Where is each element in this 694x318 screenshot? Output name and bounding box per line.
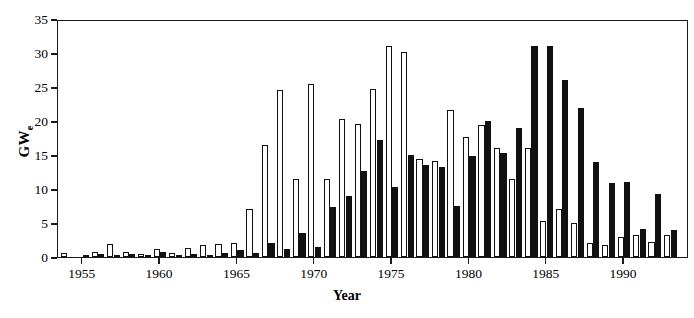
x-axis-tick [313,258,314,264]
bar [83,255,89,257]
bar [386,46,392,257]
bar [370,89,376,257]
bar [185,248,191,257]
x-axis-tick-label: 1990 [593,266,653,282]
bar [664,235,670,257]
bar [439,167,445,257]
bar [556,209,562,257]
bar [602,245,608,257]
x-axis-tick-label: 1955 [52,266,112,282]
bar [299,233,305,257]
y-axis-tick-label: 25 [20,81,48,95]
bar [145,255,151,257]
x-axis-tick [390,258,391,264]
x-axis-tick-label: 1960 [129,266,189,282]
bar [222,253,228,257]
bar [423,165,429,257]
y-axis-tick-label: 10 [20,183,48,197]
plot-area [57,20,688,258]
bar [154,249,160,257]
x-axis-tick-label: 1970 [284,266,344,282]
bar [114,255,120,257]
bar [463,137,469,257]
x-axis-tick [545,258,546,264]
x-axis-tick [236,258,237,264]
bar [593,162,599,257]
bar [138,254,144,257]
bar [416,159,422,257]
bar [176,255,182,257]
bar [500,153,506,257]
bars-container [58,21,687,257]
bar [454,206,460,257]
bar [246,209,252,257]
bar [215,244,221,257]
bar [107,244,113,257]
bar [123,252,129,257]
bar [578,108,584,257]
y-axis-tick-label: 0 [20,251,48,265]
bar [640,229,646,257]
bar [478,125,484,257]
bar [231,243,237,257]
bar [648,242,654,257]
bar [308,84,314,257]
bar [633,235,639,257]
bar [447,110,453,257]
bar [293,179,299,257]
bar [268,243,274,257]
bar [401,52,407,257]
bar [469,156,475,257]
bar [540,221,546,257]
bar [671,230,677,257]
y-axis-tick-label: 30 [20,47,48,61]
bar [92,252,98,257]
bar [655,194,661,257]
bar [315,247,321,257]
bar [516,128,522,257]
bar [485,121,491,257]
bar [361,171,367,257]
x-axis-tick-label: 1975 [361,266,421,282]
x-axis-title: Year [0,288,694,304]
y-axis-tick-label: 35 [20,13,48,27]
bar [129,254,135,257]
bar [392,187,398,257]
x-axis-tick-label: 1965 [206,266,266,282]
bar [207,255,213,257]
bar [61,253,67,257]
bar [346,196,352,257]
y-axis-tick-label: 5 [20,217,48,231]
bar [277,90,283,257]
bar [571,223,577,257]
bar [339,119,345,257]
bar [547,46,553,257]
bar [531,46,537,257]
bar [587,243,593,257]
bar [509,179,515,257]
y-axis-tick-label: 20 [20,115,48,129]
bar [408,155,414,257]
x-axis-tick-label: 1980 [438,266,498,282]
bar [253,253,259,257]
bar [494,148,500,257]
x-axis-tick [158,258,159,264]
bar [191,254,197,257]
bar [355,124,361,257]
bar [200,245,206,257]
bar [609,183,615,257]
bar [562,80,568,257]
x-axis-tick-label: 1985 [516,266,576,282]
bar [98,254,104,257]
chart-figure: GWe 05101520253035 195519601965197019751… [0,0,694,318]
bar [432,161,438,257]
bar [284,249,290,257]
x-axis-tick [622,258,623,264]
bar [160,252,166,257]
bar [237,250,243,257]
x-axis-tick [468,258,469,264]
bar [324,179,330,257]
bar [624,182,630,257]
y-axis-tick-label: 15 [20,149,48,163]
x-axis-tick [81,258,82,264]
